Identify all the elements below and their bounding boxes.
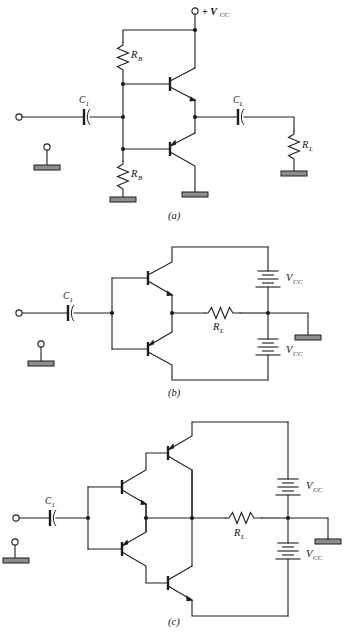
transistor-b-q1-collector-lead: [148, 247, 268, 275]
capacitor-a-c1-sub: 1: [86, 100, 90, 108]
circuit-diagram-canvas: + V CC R B: [0, 0, 348, 633]
transistor-c-q4-collector-lead: [168, 566, 192, 580]
resistor-a-rb-upper-sub: B: [138, 55, 143, 63]
node-a-input: [121, 115, 125, 119]
ground-a-input-plate: [34, 165, 60, 170]
resistor-a-rb-lower: [118, 161, 129, 197]
transistor-c-q4-npn: [168, 566, 288, 616]
capacitor-a-cl-sub: L: [239, 100, 244, 108]
resistor-b-rl: [205, 308, 240, 319]
transistor-c-q3-collector-lead: [122, 552, 168, 583]
resistor-c-rl: [226, 513, 262, 524]
capacitor-c-c1: [50, 510, 56, 526]
ground-a-rl: [281, 171, 307, 176]
ground-c-supply: [315, 539, 341, 544]
caption-b: (b): [168, 387, 181, 399]
panel-c: C 1: [3, 422, 341, 628]
supply-label-a-sub: CC: [220, 11, 230, 19]
ground-b-input: [28, 341, 54, 366]
resistor-a-rb-upper: [118, 42, 129, 84]
caption-a: (a): [168, 210, 181, 222]
transistor-c-q1-collector-lead: [122, 453, 168, 484]
wire-b-supply-ground-lead: [268, 313, 308, 335]
ground-b-input-plate: [28, 361, 54, 366]
ground-a-q2-collector: [182, 192, 208, 197]
transistor-c-q3-pnp: [121, 518, 168, 583]
transistor-a-q1-npn: [170, 68, 197, 102]
capacitor-a-c1: [84, 109, 90, 125]
ground-c-input: [3, 539, 29, 563]
capacitor-b-c1-sub: 1: [70, 296, 74, 304]
ground-c-input-plate: [3, 558, 29, 563]
transistor-a-q2-collector-lead: [170, 152, 195, 192]
battery-b-vcc-positive: [256, 271, 280, 287]
transistor-b-q2-pnp: [147, 332, 268, 380]
resistor-b-rl-label: R: [212, 321, 220, 332]
battery-b-vccn-sub: CC: [293, 350, 303, 358]
battery-b-vccp-sub: CC: [293, 278, 303, 286]
resistor-a-rb-upper-label: R: [130, 49, 138, 60]
battery-b-vcc-negative: [256, 339, 280, 355]
transistor-c-q1-npn: [122, 453, 168, 518]
panel-b: C 1: [16, 247, 321, 399]
supply-label-a-prefix: + V: [202, 6, 218, 17]
transistor-a-q1-collector-lead: [170, 68, 195, 81]
resistor-a-rb-lower-sub: B: [138, 174, 143, 182]
ground-b-supply: [295, 335, 321, 340]
supply-terminal-a[interactable]: [192, 8, 198, 14]
wire-a-cl-to-rl: [244, 117, 294, 131]
input-terminal-b[interactable]: [16, 310, 22, 316]
transistor-c-q2-pnp: [167, 422, 288, 518]
ground-a-input: [34, 144, 60, 170]
input-terminal-a[interactable]: [16, 114, 22, 120]
transistor-b-q2-collector-lead: [148, 352, 268, 380]
caption-c: (c): [168, 616, 180, 628]
resistor-c-rl-label: R: [233, 527, 241, 538]
transistor-c-q2-emitter-lead: [168, 422, 288, 450]
battery-c-vccn-sub: CC: [313, 554, 323, 562]
capacitor-b-c1: [68, 305, 74, 321]
wire-c-supply-ground-lead: [288, 518, 328, 539]
panel-a: + V CC R B: [16, 6, 313, 223]
transistor-b-q1-npn: [148, 247, 268, 296]
battery-c-vcc-negative: [276, 543, 300, 559]
transistor-c-q4-emitter-arrow: [186, 595, 193, 601]
resistor-b-rl-sub: L: [219, 327, 224, 335]
battery-c-vccp-sub: CC: [313, 486, 323, 494]
resistor-a-rl: [289, 131, 300, 171]
resistor-a-rl-sub: L: [308, 145, 313, 153]
resistor-a-rb-lower-label: R: [130, 168, 138, 179]
ground-a-input-terminal[interactable]: [44, 144, 50, 150]
ground-c-input-terminal[interactable]: [12, 539, 18, 545]
resistor-a-rl-label: R: [301, 139, 309, 150]
battery-c-vcc-positive: [276, 479, 300, 495]
transistor-c-q2-collector-lead: [168, 456, 192, 518]
ground-b-input-terminal[interactable]: [38, 341, 44, 347]
transistor-c-q4-emitter-lead: [168, 586, 288, 616]
transistor-a-q2-pnp: [169, 133, 195, 192]
capacitor-c-c1-sub: 1: [52, 501, 56, 509]
ground-a-rb-lower: [110, 197, 136, 202]
input-terminal-c[interactable]: [13, 515, 19, 521]
resistor-c-rl-sub: L: [240, 533, 245, 541]
capacitor-a-cl: [238, 109, 244, 125]
wire-a-rail-to-rb1: [123, 30, 195, 42]
circuit-figure: + V CC R B: [0, 0, 348, 633]
